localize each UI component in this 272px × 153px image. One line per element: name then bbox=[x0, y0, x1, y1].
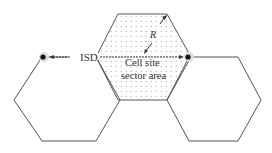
arrowhead-left-icon bbox=[49, 55, 54, 59]
isd-label: ISD bbox=[80, 51, 98, 63]
left-cell-site-icon bbox=[39, 52, 49, 62]
sector-label-line2: sector area bbox=[121, 70, 167, 81]
radius-label: R bbox=[149, 29, 156, 40]
hexagon-cell-diagram: ISD R Cell site sector area bbox=[0, 0, 272, 153]
right-cell-site-icon bbox=[184, 52, 194, 62]
sector-label-line1: Cell site bbox=[125, 57, 160, 68]
